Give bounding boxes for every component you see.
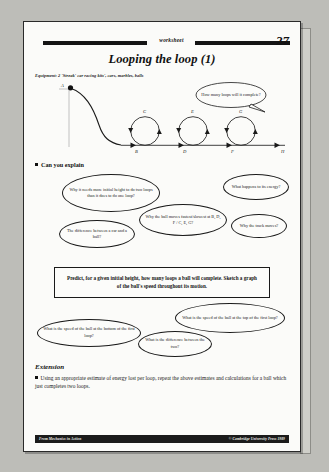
- footer-source: From Mechanics in Action: [39, 437, 81, 441]
- scan-background: worksheet 27 Looping the loop (1) Equipm…: [0, 0, 329, 472]
- extension-item: Using an appropriate estimate of energy …: [35, 374, 289, 391]
- page-content: worksheet 27 Looping the loop (1) Equipm…: [24, 22, 300, 451]
- predict-box: Predict, for a given initial height, how…: [54, 267, 270, 298]
- label-B: B: [135, 149, 138, 154]
- label-A: A: [60, 83, 64, 88]
- explain-bubble-group: Why it needs more initial height to do t…: [35, 168, 289, 263]
- bubble-how-many-loops: How many loops will it complete?: [196, 83, 266, 107]
- bubble-speed-top: What is the speed of the ball at the top…: [175, 303, 285, 333]
- bubble-energy: What happens to its energy?: [223, 174, 289, 200]
- bubble-fastest-slowest: Why the ball moves fastest/slowest at B,…: [139, 204, 227, 236]
- label-G: G: [239, 109, 243, 114]
- page-number: 27: [276, 33, 289, 49]
- label-F: F: [230, 149, 234, 154]
- footer-copyright: © Cambridge University Press 1989: [229, 437, 285, 441]
- equipment-line: Equipment: 2 'Streak' car racing kits', …: [35, 73, 289, 78]
- bubble-car-vs-ball: The difference between a car and a ball?: [59, 220, 135, 248]
- label-H: H: [280, 149, 285, 154]
- page-footer: From Mechanics in Action © Cambridge Uni…: [35, 435, 289, 443]
- bubble-initial-height: Why it needs more initial height to do t…: [62, 174, 160, 212]
- extension-heading: Extension: [35, 363, 289, 371]
- bubble-difference: What is the difference between the two?: [138, 331, 212, 357]
- bubble-track-moves: Why the track moves?: [231, 214, 287, 238]
- worksheet-header: worksheet 27: [35, 36, 289, 50]
- bubble-speed-bottom: What is the speed of the ball at the bot…: [37, 319, 141, 347]
- page-edge-shadow: [300, 28, 311, 454]
- square-bullet-icon: [35, 163, 38, 166]
- can-you-explain-heading: Can you explain: [35, 161, 289, 168]
- worksheet-label: worksheet: [150, 37, 193, 43]
- label-C: C: [143, 109, 147, 114]
- header-rule-left: [43, 41, 147, 45]
- square-bullet-icon: [35, 376, 38, 379]
- worksheet-page: worksheet 27 Looping the loop (1) Equipm…: [23, 21, 301, 452]
- page-title: Looping the loop (1): [35, 52, 289, 67]
- ramp-loop-diagram: A B C D E F G H How many loops will it c…: [35, 79, 289, 159]
- label-E: E: [190, 109, 194, 114]
- label-D: D: [182, 149, 187, 154]
- speed-bubble-group: What is the speed of the ball at the bot…: [35, 301, 289, 363]
